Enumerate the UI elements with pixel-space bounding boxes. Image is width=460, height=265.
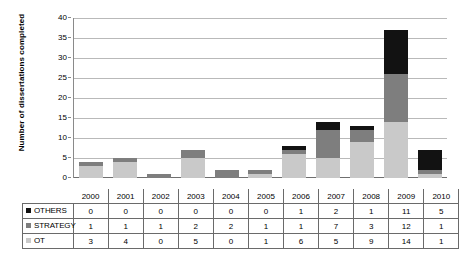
bar-segment-ot-2005 [248, 174, 272, 178]
cell-strategy-2008: 3 [354, 219, 389, 234]
cell-others-2008: 1 [354, 204, 389, 219]
table-header-2006: 2006 [283, 189, 318, 204]
y-tick-mark-icon [68, 37, 71, 38]
cell-ot-2007: 5 [319, 234, 354, 249]
bar-slot-2004 [210, 18, 244, 178]
y-tick-15: 15 [58, 114, 67, 122]
cell-ot-2001: 4 [108, 234, 143, 249]
cell-strategy-2001: 1 [108, 219, 143, 234]
table-header-row: 2000200120022003200420052006200720082009… [23, 189, 459, 204]
stacked-bar-2001[interactable] [113, 158, 137, 178]
bar-segment-strategy-2004 [215, 170, 239, 178]
y-tick-mark-icon [68, 57, 71, 58]
cell-strategy-2003: 2 [178, 219, 213, 234]
cell-ot-2002: 0 [143, 234, 178, 249]
stacked-bar-2004[interactable] [215, 170, 239, 178]
table-header-2008: 2008 [354, 189, 389, 204]
chart-figure: Number of dissertations completed 051015… [0, 0, 460, 265]
cell-ot-2008: 9 [354, 234, 389, 249]
cell-others-2001: 0 [108, 204, 143, 219]
cell-strategy-2000: 1 [74, 219, 109, 234]
bar-segment-strategy-2009 [384, 74, 408, 122]
cell-others-2000: 0 [74, 204, 109, 219]
cell-strategy-2005: 1 [248, 219, 283, 234]
bar-slot-2008 [345, 18, 379, 178]
cell-ot-2009: 14 [389, 234, 424, 249]
legend-label: OTHERS [34, 207, 67, 216]
cell-strategy-2002: 1 [143, 219, 178, 234]
bar-slot-2000 [74, 18, 108, 178]
table-header-2003: 2003 [178, 189, 213, 204]
y-tick-mark-icon [68, 117, 71, 118]
cell-others-2004: 0 [213, 204, 248, 219]
bar-segment-ot-2006 [282, 154, 306, 178]
y-tick-20: 20 [58, 94, 67, 102]
bar-segment-others-2009 [384, 30, 408, 74]
y-tick-mark-icon [68, 17, 71, 18]
y-axis-tick-labels: 0510152025303540 [40, 14, 71, 189]
bar-slot-2010 [413, 18, 447, 178]
cell-strategy-2006: 1 [283, 219, 318, 234]
y-tick-35: 35 [58, 34, 67, 42]
bar-segment-ot-2000 [79, 166, 103, 178]
cell-ot-2004: 0 [213, 234, 248, 249]
plot-area-wrapper: 0510152025303540 [40, 14, 448, 189]
stacked-bar-2010[interactable] [418, 150, 442, 178]
stacked-bar-2002[interactable] [147, 174, 171, 178]
cell-others-2003: 0 [178, 204, 213, 219]
legend-row-others: OTHERS [23, 204, 74, 219]
y-tick-30: 30 [58, 54, 67, 62]
cell-strategy-2007: 7 [319, 219, 354, 234]
table-header-2007: 2007 [319, 189, 354, 204]
bar-segment-strategy-2003 [181, 150, 205, 158]
stacked-bar-2008[interactable] [350, 126, 374, 178]
cell-ot-2006: 6 [283, 234, 318, 249]
legend-row-ot: OT [23, 234, 74, 249]
ot-swatch-icon [26, 238, 31, 243]
stacked-bar-2005[interactable] [248, 170, 272, 178]
bar-series-group [74, 18, 447, 178]
stacked-bar-2009[interactable] [384, 30, 408, 178]
bar-segment-ot-2010 [418, 174, 442, 178]
table-corner-cell [23, 189, 74, 204]
data-table: 2000200120022003200420052006200720082009… [22, 189, 459, 249]
others-swatch-icon [26, 208, 31, 213]
legend-row-strategy: STRATEGY [23, 219, 74, 234]
y-tick-25: 25 [58, 74, 67, 82]
bar-segment-ot-2007 [316, 158, 340, 178]
cell-ot-2005: 1 [248, 234, 283, 249]
cell-others-2007: 2 [319, 204, 354, 219]
cell-strategy-2010: 1 [424, 219, 459, 234]
bar-slot-2001 [108, 18, 142, 178]
y-tick-0: 0 [63, 174, 67, 182]
cell-ot-2003: 5 [178, 234, 213, 249]
bar-slot-2003 [176, 18, 210, 178]
stacked-bar-2003[interactable] [181, 150, 205, 178]
bar-slot-2005 [244, 18, 278, 178]
cell-others-2002: 0 [143, 204, 178, 219]
stacked-bar-2006[interactable] [282, 146, 306, 178]
bar-segment-ot-2008 [350, 142, 374, 178]
cell-others-2006: 1 [283, 204, 318, 219]
y-tick-mark-icon [68, 177, 71, 178]
bar-segment-strategy-2002 [147, 174, 171, 178]
cell-others-2009: 11 [389, 204, 424, 219]
table-row: OT340501659141 [23, 234, 459, 249]
legend-label: OT [34, 237, 45, 246]
table-header-2001: 2001 [108, 189, 143, 204]
stacked-bar-2007[interactable] [316, 122, 340, 178]
plot-area [73, 18, 447, 178]
table-header-2002: 2002 [143, 189, 178, 204]
bar-segment-others-2010 [418, 150, 442, 170]
bar-segment-others-2007 [316, 122, 340, 130]
y-tick-mark-icon [68, 97, 71, 98]
table-header-2005: 2005 [248, 189, 283, 204]
y-tick-40: 40 [58, 14, 67, 22]
bar-segment-ot-2009 [384, 122, 408, 178]
table-row: STRATEGY111221173121 [23, 219, 459, 234]
y-tick-mark-icon [68, 157, 71, 158]
cell-strategy-2004: 2 [213, 219, 248, 234]
y-tick-5: 5 [63, 154, 67, 162]
stacked-bar-2000[interactable] [79, 162, 103, 178]
table-row: OTHERS000000121115 [23, 204, 459, 219]
